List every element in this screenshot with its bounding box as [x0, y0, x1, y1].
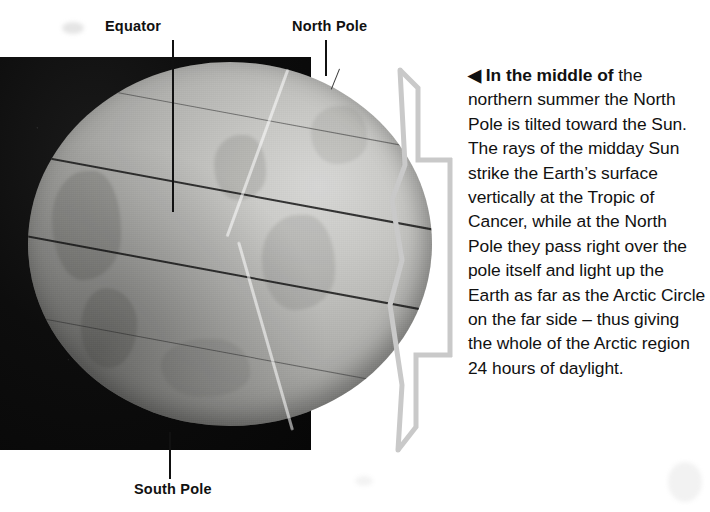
landmass-shape: [161, 339, 250, 397]
label-north-pole: North Pole: [292, 18, 367, 34]
label-south-pole: South Pole: [134, 481, 212, 497]
landmass-shape: [52, 171, 121, 280]
landmass-shape: [262, 215, 335, 310]
earth-sphere: [28, 62, 432, 426]
latitude-line-equator: [28, 230, 432, 317]
latitude-line-tropic-cancer: [28, 149, 432, 236]
landmass-shape: [81, 288, 138, 368]
caption-text-block: ◀ In the middle of the northern summer t…: [468, 63, 706, 380]
scan-smudge: [668, 462, 702, 502]
landmass-shape: [214, 135, 267, 201]
caption-lead-in: In the middle of: [486, 65, 614, 85]
earth-globe: [28, 62, 432, 426]
south-pole-leader-line: [169, 432, 171, 479]
latitude-line-tropic-capricorn: [28, 310, 432, 397]
globe-shading: [28, 62, 432, 426]
latitude-line-arctic: [28, 70, 432, 157]
north-pole-leader-line: [325, 40, 327, 76]
landmass-shape: [311, 106, 368, 164]
scan-smudge: [355, 476, 373, 486]
solstice-diagram-figure: Equator North Pole South Pole ◀ In the m…: [0, 0, 710, 512]
scan-smudge: [62, 22, 84, 34]
caption-body: the northern summer the North Pole is ti…: [468, 65, 705, 378]
label-equator: Equator: [105, 18, 161, 34]
equator-leader-line: [172, 40, 174, 212]
globe-grain: [28, 62, 432, 426]
caption-arrow-icon: ◀: [468, 65, 481, 85]
